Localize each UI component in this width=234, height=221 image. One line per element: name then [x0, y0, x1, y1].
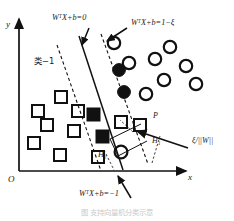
- margin-lower-equation-label: WᵀX+b=−1: [79, 190, 119, 198]
- margin-upper-equation-label: WᵀX+b=1−ξ: [131, 19, 174, 27]
- class-negative-label: 类−1: [34, 57, 54, 65]
- h2-label: H₂: [98, 151, 107, 159]
- h1-leader-arrow: [137, 131, 188, 148]
- x-axis-label: x: [188, 173, 192, 182]
- svm-margin-figure: y x O WᵀX+b=0 WᵀX+b=1−ξ WᵀX+b=−1 类−1 P H…: [0, 0, 234, 221]
- hyperplane-leader-arrow: [82, 28, 89, 45]
- h1-label: H₁: [152, 137, 161, 145]
- point-p-label: P: [153, 112, 158, 120]
- margin-lower-leader-arrow: [118, 176, 131, 198]
- hyperplane-equation-label: WᵀX+b=0: [52, 14, 86, 22]
- origin-label: O: [8, 175, 15, 184]
- figure-canvas: [0, 0, 234, 221]
- slack-distance-label: ξ/||W||: [192, 137, 213, 145]
- filled-square-marker: [87, 108, 109, 143]
- figure-caption: 图 支持向量机分类示意: [0, 206, 234, 217]
- y-axis-label: y: [6, 20, 10, 29]
